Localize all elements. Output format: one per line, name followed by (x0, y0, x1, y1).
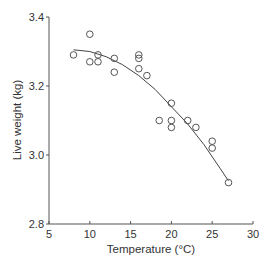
x-tick-label: 5 (46, 228, 52, 240)
data-point (168, 124, 175, 131)
fit-curve (74, 50, 229, 181)
data-point (193, 124, 200, 131)
data-point (156, 117, 163, 124)
data-point (95, 59, 102, 66)
scatter-chart: 2.83.03.23.451015202530 Temperature (°C)… (0, 0, 271, 268)
data-point (111, 69, 118, 76)
x-tick-label: 30 (247, 228, 259, 240)
fit-line (74, 50, 229, 181)
x-tick-label: 10 (84, 228, 96, 240)
data-point (144, 72, 151, 79)
data-point (87, 59, 94, 66)
data-point (70, 52, 77, 59)
y-tick-label: 2.8 (29, 218, 44, 230)
data-point (184, 117, 191, 124)
y-tick-label: 3.0 (29, 149, 44, 161)
data-point (168, 117, 175, 124)
data-point (209, 138, 216, 145)
y-tick-label: 3.2 (29, 80, 44, 92)
data-point (168, 100, 175, 107)
data-point (136, 65, 143, 72)
data-points (70, 31, 232, 186)
x-tick-label: 20 (165, 228, 177, 240)
y-axis-title: Live weight (kg) (11, 80, 23, 161)
data-point (87, 31, 94, 38)
x-tick-label: 15 (124, 228, 136, 240)
axes: 2.83.03.23.451015202530 (29, 11, 259, 240)
x-axis-title: Temperature (°C) (107, 243, 195, 255)
data-point (209, 145, 216, 152)
x-tick-label: 25 (206, 228, 218, 240)
y-tick-label: 3.4 (29, 11, 44, 23)
